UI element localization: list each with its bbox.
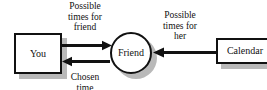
node-friend-label: Friend <box>118 48 144 58</box>
node-you-label: You <box>30 49 46 59</box>
arrow-you-to-friend <box>62 41 112 50</box>
edge-label-calendar-to-friend: Possible times for her <box>152 10 208 42</box>
arrow-friend-to-you <box>62 57 110 66</box>
node-friend[interactable]: Friend <box>110 32 152 74</box>
node-calendar[interactable]: Calendar <box>216 38 267 64</box>
edge-label-you-to-friend: Possible times for friend <box>57 1 113 33</box>
diagram-canvas: You Friend Calendar Possible times for f… <box>0 0 267 90</box>
arrow-calendar-to-friend <box>153 47 217 57</box>
node-calendar-label: Calendar <box>227 46 263 56</box>
node-you[interactable]: You <box>14 33 62 74</box>
edge-label-friend-to-you: Chosen time <box>61 72 109 90</box>
